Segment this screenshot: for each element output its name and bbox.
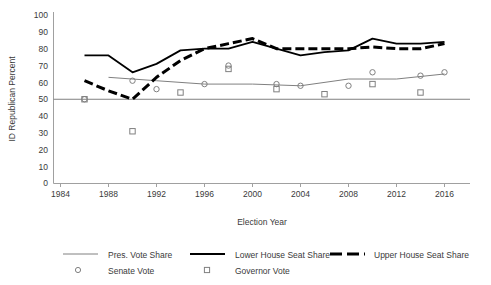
y-axis-title: ID Republican Percent [7,56,17,142]
x-tick-label: 1988 [99,189,118,199]
data-marker-layer [82,63,447,134]
senate-vote-marker [226,63,231,68]
y-tick-label: 80 [39,44,49,54]
y-tick-label: 50 [39,94,49,104]
upper-house-seat-share-line [85,39,445,100]
senate-vote-marker [418,73,423,78]
senate-vote-marker [346,83,351,88]
x-tick-label: 1984 [51,189,70,199]
legend-label-governor-vote: Governor Vote [235,266,290,276]
x-tick-label: 2012 [387,189,406,199]
y-tick-label: 30 [39,128,49,138]
y-tick-label: 40 [39,111,49,121]
x-tick-labels: 1984 1988 1992 1996 2000 2004 2008 2012 … [51,189,454,199]
legend-label-senate-vote: Senate Vote [108,266,155,276]
chart-figure: ID Republican Percent 100 90 80 70 60 50… [0,0,491,285]
x-tick-label: 2008 [339,189,358,199]
data-series-layer [85,39,445,100]
x-tick-label: 2004 [291,189,310,199]
y-tick-label: 70 [39,61,49,71]
senate-vote-marker [154,86,159,91]
y-tick-label: 20 [39,145,49,155]
y-tick-labels: 100 90 80 70 60 50 40 30 20 10 0 [34,10,48,188]
senate-vote-marker [370,70,375,75]
x-tick-label: 2000 [243,189,262,199]
y-tick-label: 90 [39,27,49,37]
governor-vote-marker [178,90,183,95]
governor-vote-marker [130,129,135,134]
y-tick-label: 0 [43,178,48,188]
y-tick-label: 10 [39,162,49,172]
y-tick-label: 100 [34,10,48,20]
legend-label-pres-vote-share: Pres. Vote Share [108,250,173,260]
governor-vote-marker [418,90,423,95]
legend-label-lower-house-seat-share: Lower House Seat Share [235,250,330,260]
x-tick-label: 1992 [147,189,166,199]
chart-legend: Pres. Vote Share Lower House Seat Share … [63,250,469,276]
square-marker-swatch [204,267,209,272]
circle-marker-swatch [75,267,80,272]
governor-vote-marker [322,91,327,96]
y-tick-label: 60 [39,78,49,88]
x-tick-label: 2016 [435,189,454,199]
republican-percent-line-chart: ID Republican Percent 100 90 80 70 60 50… [0,0,491,285]
governor-vote-marker [370,81,375,86]
x-axis-title: Election Year [237,217,287,227]
x-tick-label: 1996 [195,189,214,199]
x-axis-ticks [61,184,445,188]
legend-label-upper-house-seat-share: Upper House Seat Share [374,250,469,260]
